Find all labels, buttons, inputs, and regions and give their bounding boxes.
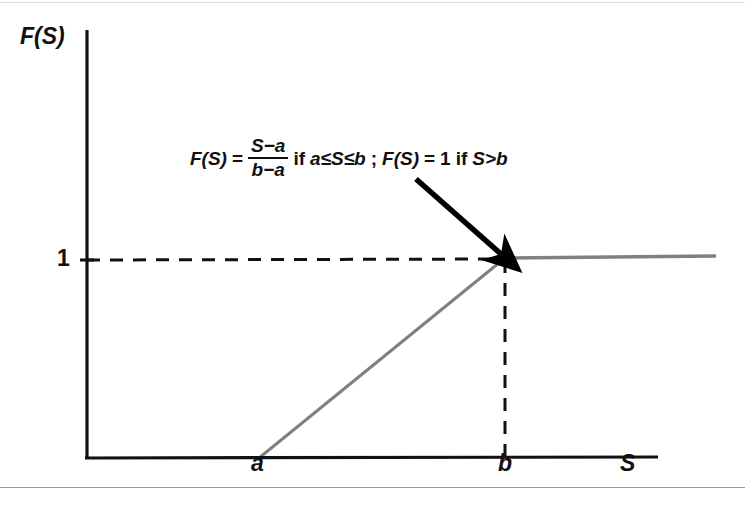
y-axis-tick-label-one: 1	[57, 247, 70, 270]
x-axis-tick-label-a: a	[251, 452, 264, 475]
annotation-arrow	[416, 179, 501, 254]
formula-value-second: 1	[440, 149, 451, 169]
formula-lhs-first: F(S)	[190, 149, 227, 169]
x-axis-label: S	[620, 452, 635, 475]
formula-fraction: S−a b−a	[248, 136, 288, 180]
formula-separator: ;	[371, 149, 377, 169]
plot-svg	[0, 0, 745, 509]
figure-canvas: F(S) S 1 a b F(S) = S−a b−a if a≤S≤b ; F…	[0, 0, 745, 509]
formula-lhs-second: F(S)	[382, 149, 419, 169]
x-axis-tick-label-b: b	[498, 452, 512, 475]
guide-line-y-one-dashed	[87, 259, 504, 260]
formula-numerator: S−a	[248, 136, 288, 159]
formula-range-second: S>b	[472, 149, 507, 169]
formula-annotation: F(S) = S−a b−a if a≤S≤b ; F(S) = 1 if S>…	[190, 137, 508, 181]
formula-denominator: b−a	[249, 159, 288, 180]
formula-if-second: if	[456, 149, 468, 169]
curve-ramp-segment	[259, 258, 505, 458]
formula-equals-first: =	[232, 149, 243, 169]
formula-range-first: a≤S≤b	[310, 149, 366, 169]
formula-equals-second: =	[424, 149, 435, 169]
y-axis-label: F(S)	[20, 25, 65, 48]
curve-plateau-segment	[503, 256, 716, 258]
x-axis-line	[85, 457, 658, 458]
formula-if-first: if	[293, 149, 305, 169]
